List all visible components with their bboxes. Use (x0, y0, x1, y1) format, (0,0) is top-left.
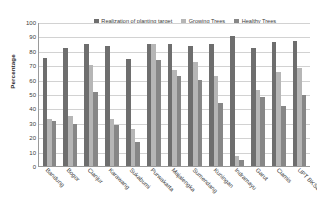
x-label-cell: Garut (247, 167, 268, 220)
bar (198, 80, 203, 166)
x-label-cell: UPT BKSD Jabar II (289, 167, 310, 220)
x-label-cell: Kuningan (205, 167, 226, 220)
bars-layer (39, 23, 310, 166)
bar-group (268, 23, 289, 166)
y-tick-label: 50 (14, 92, 36, 98)
bar (93, 92, 98, 166)
x-label-cell: Sukabumi (122, 167, 143, 220)
x-label-cell: Sumendang (184, 167, 205, 220)
y-tick-label: 20 (14, 135, 36, 141)
bar-group (206, 23, 227, 166)
bar-group (143, 23, 164, 166)
bar (260, 97, 265, 166)
bar-group (164, 23, 185, 166)
bar-group (227, 23, 248, 166)
x-label-cell: Indramayu (226, 167, 247, 220)
x-label-cell: Karawang (101, 167, 122, 220)
bar-group (39, 23, 60, 166)
plot-area (38, 23, 310, 167)
x-label-cell: Ciamis (268, 167, 289, 220)
bar (230, 36, 235, 166)
x-axis-label: UPT BKSD Jabar II (295, 167, 317, 208)
bar-group (60, 23, 81, 166)
bar (239, 160, 244, 166)
bar-group (102, 23, 123, 166)
bar (73, 124, 78, 166)
x-label-cell: Majalengka (164, 167, 185, 220)
bar (302, 95, 307, 166)
y-tick-label: 40 (14, 106, 36, 112)
bar (281, 106, 286, 166)
x-label-cell: Bandung (38, 167, 59, 220)
y-tick-label: 10 (14, 150, 36, 156)
x-label-cell: Purwakarta (143, 167, 164, 220)
bar (114, 125, 119, 166)
y-axis-ticks: 1009080706050403020100 (14, 23, 36, 167)
y-tick-label: 80 (14, 49, 36, 55)
bar-group (185, 23, 206, 166)
bar-group (81, 23, 102, 166)
y-tick-label: 100 (14, 20, 36, 26)
bar (177, 76, 182, 166)
x-label-cell: Bogor (59, 167, 80, 220)
y-tick-label: 70 (14, 63, 36, 69)
y-tick-label: 0 (14, 164, 36, 170)
bar (135, 142, 140, 166)
x-axis-labels: BandungBogorCianjurKarawangSukabumiPurwa… (38, 167, 310, 220)
bar (52, 121, 57, 166)
bar-group (289, 23, 310, 166)
y-tick-label: 30 (14, 121, 36, 127)
bar-chart: Realization of planting target Growing T… (0, 0, 317, 220)
x-label-cell: Cianjur (80, 167, 101, 220)
y-tick-label: 90 (14, 34, 36, 40)
bar-group (122, 23, 143, 166)
bar (156, 60, 161, 166)
x-axis-label: Garut (253, 167, 269, 183)
y-tick-label: 60 (14, 78, 36, 84)
bar (218, 103, 223, 166)
bar-group (247, 23, 268, 166)
